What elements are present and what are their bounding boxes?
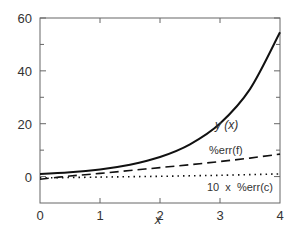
annotations: y (x) %err(f) 10 x %err(c) — [207, 118, 273, 193]
annotation-err-f: %err(f) — [209, 144, 243, 156]
x-axis-title: x — [154, 212, 162, 227]
x-axis: 01234 x — [36, 18, 283, 227]
x-tick-label: 4 — [276, 208, 283, 223]
x-tick-label: 1 — [96, 208, 103, 223]
y-tick-label: 0 — [25, 170, 32, 185]
annotation-err-c: 10 x %err(c) — [207, 181, 273, 193]
annotation-y-of-x: y (x) — [214, 118, 238, 132]
x-tick-label: 0 — [36, 208, 43, 223]
series-y-of-x — [40, 32, 280, 174]
series-group — [40, 32, 280, 179]
x-tick-label: 3 — [216, 208, 223, 223]
line-chart: 0204060 01234 x y (x) %err(f) 10 x %err(… — [0, 0, 297, 234]
y-tick-label: 20 — [18, 117, 32, 132]
y-tick-label: 60 — [18, 11, 32, 26]
y-tick-label: 40 — [18, 64, 32, 79]
